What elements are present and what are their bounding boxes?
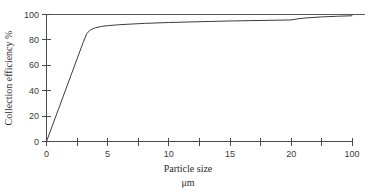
x-tick-label: 20 [286,149,296,159]
y-tick-label: 0 [34,137,39,147]
x-tick-label: 10 [164,149,174,159]
x-tick-label: 0 [44,149,49,159]
x-axis-title: Particle size [164,163,213,174]
y-tick-label: 80 [29,35,39,45]
chart-plot-area: 0 20 40 60 80 100 0 5 10 15 20 [0,0,368,194]
x-tick-label: 15 [225,149,235,159]
x-tick-label: 5 [105,149,110,159]
y-tick-label: 20 [29,111,39,121]
y-tick-label: 100 [24,10,39,20]
x-tick-label: 100 [344,149,359,159]
y-tick-label: 40 [29,86,39,96]
x-axis-title-units: μm [181,177,194,188]
chart-figure: 0 20 40 60 80 100 0 5 10 15 20 [0,0,368,194]
y-tick-label: 60 [29,60,39,70]
y-axis-tick-labels: 0 20 40 60 80 100 [24,10,39,147]
data-series-line [47,16,353,142]
x-axis-tick-labels: 0 5 10 15 20 100 [44,149,360,159]
y-axis-title: Collection efficiency % [3,31,14,126]
